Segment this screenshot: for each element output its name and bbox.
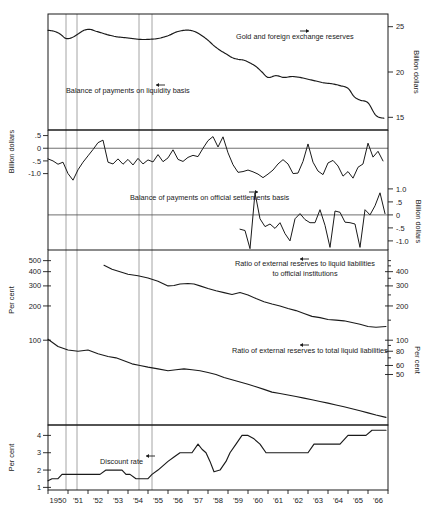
svg-text:60: 60 — [396, 361, 404, 370]
svg-text:'52: '52 — [93, 496, 103, 505]
svg-text:-1.0: -1.0 — [396, 237, 409, 246]
svg-text:80: 80 — [396, 347, 404, 356]
svg-text:Billion dollars: Billion dollars — [7, 129, 16, 173]
svg-text:'60: '60 — [253, 496, 263, 505]
svg-text:-1.0: -1.0 — [28, 169, 41, 178]
svg-text:400: 400 — [29, 267, 41, 276]
svg-text:4: 4 — [37, 431, 41, 440]
svg-text:200: 200 — [396, 302, 408, 311]
svg-text:'55: '55 — [153, 496, 163, 505]
svg-text:1950: 1950 — [50, 496, 67, 505]
svg-text:.5: .5 — [396, 198, 402, 207]
economic-indicators-chart: 252015Billion dollarsGold and foreign ex… — [0, 0, 435, 513]
svg-text:-.5: -.5 — [396, 224, 405, 233]
svg-text:-.5: -.5 — [32, 157, 41, 166]
svg-text:.5: .5 — [35, 131, 41, 140]
svg-text:200: 200 — [29, 302, 41, 311]
svg-text:Ratio of external reserves to: Ratio of external reserves to total liqu… — [232, 346, 388, 355]
svg-text:Balance of payments on liquidi: Balance of payments on liquidity basis — [66, 86, 190, 95]
svg-text:Per cent: Per cent — [7, 444, 16, 472]
svg-text:'65: '65 — [353, 496, 363, 505]
svg-text:'57: '57 — [193, 496, 203, 505]
svg-text:'59: '59 — [233, 496, 243, 505]
svg-text:1: 1 — [37, 483, 41, 492]
svg-text:500: 500 — [29, 256, 41, 265]
svg-text:Gold and foreign exchange rese: Gold and foreign exchange reserves — [236, 32, 354, 41]
svg-text:0: 0 — [37, 144, 41, 153]
svg-text:100: 100 — [29, 336, 41, 345]
svg-text:Per cent: Per cent — [413, 346, 422, 374]
svg-text:'64: '64 — [333, 496, 343, 505]
svg-text:'66: '66 — [373, 496, 383, 505]
svg-text:'63: '63 — [313, 496, 323, 505]
svg-text:Billion dollars: Billion dollars — [414, 200, 423, 244]
svg-text:300: 300 — [396, 281, 408, 290]
svg-text:'56: '56 — [173, 496, 183, 505]
svg-text:'51: '51 — [73, 496, 83, 505]
svg-text:'58: '58 — [213, 496, 223, 505]
svg-text:3: 3 — [37, 448, 41, 457]
svg-text:Balance of payments on officia: Balance of payments on official settleme… — [130, 193, 290, 202]
svg-text:to official institutions: to official institutions — [272, 269, 338, 278]
svg-text:300: 300 — [29, 281, 41, 290]
svg-text:Per cent: Per cent — [7, 286, 16, 314]
svg-text:400: 400 — [396, 267, 408, 276]
svg-text:'61: '61 — [273, 496, 283, 505]
svg-text:0: 0 — [396, 211, 400, 220]
chart-background — [0, 0, 435, 513]
svg-text:'54: '54 — [133, 496, 143, 505]
svg-text:25: 25 — [396, 22, 404, 31]
svg-text:50: 50 — [396, 370, 404, 379]
svg-text:15: 15 — [396, 113, 404, 122]
svg-text:Discount rate: Discount rate — [100, 457, 143, 466]
svg-text:2: 2 — [37, 466, 41, 475]
svg-text:100: 100 — [396, 336, 408, 345]
svg-text:'53: '53 — [113, 496, 123, 505]
svg-text:1.0: 1.0 — [396, 185, 406, 194]
chart-figure: 252015Billion dollarsGold and foreign ex… — [0, 0, 435, 513]
svg-text:Ratio of external reserves to: Ratio of external reserves to liquid lia… — [235, 259, 375, 268]
svg-text:20: 20 — [396, 68, 404, 77]
svg-text:'62: '62 — [293, 496, 303, 505]
svg-text:Billion dollars: Billion dollars — [412, 50, 421, 94]
